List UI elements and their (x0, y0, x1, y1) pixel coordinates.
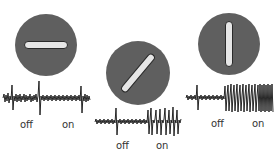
label-off: off (211, 119, 224, 129)
stimulus-bar-vertical (225, 21, 233, 67)
stimulus-disc-vertical (198, 13, 260, 75)
stimulus-bar-diagonal (120, 52, 157, 94)
label-off: off (20, 120, 33, 130)
label-on: on (62, 120, 74, 130)
spike-trace-diagonal (93, 105, 185, 137)
stimulus-bar-horizontal (24, 41, 68, 49)
panel-vertical: off on (182, 0, 278, 135)
label-on: on (156, 141, 168, 151)
stimulus-disc-horizontal (15, 14, 77, 76)
label-off: off (116, 141, 129, 151)
orientation-tuning-diagram: off on off on off on (0, 0, 278, 159)
spike-trace-horizontal (0, 80, 95, 118)
panel-diagonal: off on (93, 0, 185, 159)
stimulus-disc-diagonal (106, 41, 170, 105)
panel-horizontal: off on (0, 0, 95, 135)
spike-trace-vertical (182, 82, 278, 114)
label-on: on (252, 119, 264, 129)
